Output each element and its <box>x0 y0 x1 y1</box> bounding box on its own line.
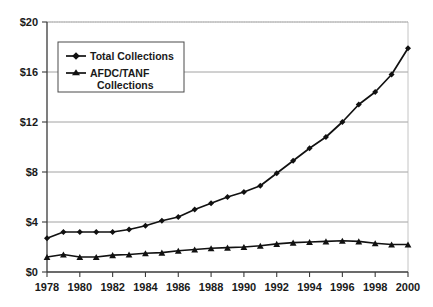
data-point-marker <box>175 214 181 220</box>
data-point-marker <box>142 223 148 229</box>
data-point-marker <box>77 229 83 235</box>
y-axis-tick-labels: $0$4$8$12$16$20 <box>20 16 39 278</box>
x-tick-label-1978: 1978 <box>35 281 59 293</box>
legend: Total Collections AFDC/TANF Collections <box>58 42 184 92</box>
y-tick-label-20: $20 <box>20 16 38 28</box>
legend-label-afdc-tanf-line2: Collections <box>97 79 154 91</box>
series-afdc-tanf-collections <box>44 238 412 260</box>
y-tick-label-16: $16 <box>20 66 38 78</box>
data-point-marker <box>159 218 165 224</box>
x-tick-label-1986: 1986 <box>166 281 190 293</box>
x-axis-ticks <box>47 272 408 277</box>
data-point-marker <box>93 229 99 235</box>
legend-label-total-collections: Total Collections <box>90 50 174 62</box>
data-point-marker <box>60 229 66 235</box>
x-tick-label-1996: 1996 <box>330 281 354 293</box>
data-point-marker <box>208 200 214 206</box>
chart-canvas: $0$4$8$12$16$20 197819801982198419861988… <box>0 0 433 307</box>
data-point-marker <box>110 229 116 235</box>
legend-label-afdc-tanf: AFDC/TANF <box>90 67 150 79</box>
data-point-marker <box>241 189 247 195</box>
x-axis-tick-labels: 1978198019821984198619881990199219941996… <box>35 281 420 293</box>
x-tick-label-1984: 1984 <box>133 281 158 293</box>
data-point-marker <box>44 235 50 241</box>
data-point-marker <box>192 207 198 213</box>
data-point-marker <box>126 227 132 233</box>
x-tick-label-1990: 1990 <box>232 281 256 293</box>
x-tick-label-1992: 1992 <box>264 281 288 293</box>
x-tick-label-1998: 1998 <box>363 281 387 293</box>
y-tick-label-8: $8 <box>26 166 38 178</box>
x-tick-label-1994: 1994 <box>297 281 322 293</box>
y-tick-label-12: $12 <box>20 116 38 128</box>
x-tick-label-1980: 1980 <box>68 281 92 293</box>
x-tick-label-1988: 1988 <box>199 281 223 293</box>
y-axis-ticks <box>42 22 47 272</box>
y-tick-label-0: $0 <box>26 266 38 278</box>
data-point-marker <box>225 194 231 200</box>
line-chart: $0$4$8$12$16$20 197819801982198419861988… <box>0 0 433 307</box>
y-tick-label-4: $4 <box>26 216 39 228</box>
x-tick-label-2000: 2000 <box>396 281 420 293</box>
x-tick-label-1982: 1982 <box>100 281 124 293</box>
